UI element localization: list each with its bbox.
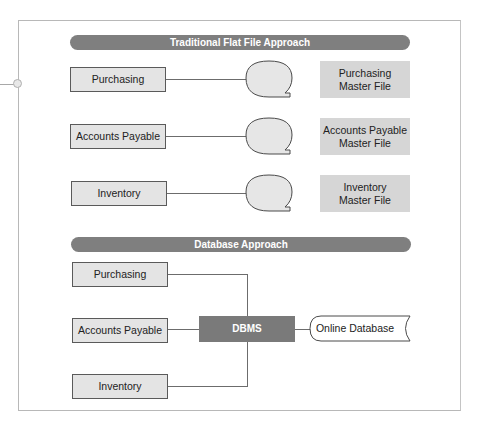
db-app-purchasing: Purchasing <box>72 262 168 287</box>
flat-app-inventory: Inventory <box>71 181 167 206</box>
db-connector-inventory-v <box>247 342 248 386</box>
flat-connector-accounts-payable <box>166 136 246 137</box>
online-database-label: Online Database <box>309 315 401 342</box>
master-file-purchasing: Purchasing Master File <box>320 61 410 98</box>
master-file-accounts-payable: Accounts Payable Master File <box>320 118 410 155</box>
dbms-box: DBMS <box>199 316 295 342</box>
file-storage-icon <box>244 116 294 157</box>
db-connector-purchasing-v <box>247 274 248 316</box>
flat-connector-purchasing <box>166 79 246 80</box>
file-storage-icon <box>244 59 294 100</box>
db-connector-purchasing-h <box>168 274 248 275</box>
flat-file-banner: Traditional Flat File Approach <box>70 35 410 50</box>
master-file-line1: Accounts Payable <box>323 124 407 137</box>
flat-app-purchasing: Purchasing <box>70 67 166 92</box>
master-file-line1: Inventory <box>343 181 386 194</box>
master-file-inventory: Inventory Master File <box>320 175 410 212</box>
database-banner: Database Approach <box>71 237 411 252</box>
db-connector-accounts-payable <box>168 329 199 330</box>
master-file-line2: Master File <box>339 80 391 93</box>
frame-connector-dot <box>13 79 22 88</box>
master-file-line2: Master File <box>339 194 391 207</box>
db-app-inventory: Inventory <box>72 374 168 399</box>
flat-app-accounts-payable: Accounts Payable <box>70 124 166 149</box>
master-file-line1: Purchasing <box>339 67 392 80</box>
master-file-line2: Master File <box>339 137 391 150</box>
online-database: Online Database <box>309 315 413 342</box>
db-connector-inventory-h <box>168 386 248 387</box>
db-app-accounts-payable: Accounts Payable <box>72 318 168 343</box>
flat-connector-inventory <box>167 193 246 194</box>
file-storage-icon <box>244 173 294 214</box>
